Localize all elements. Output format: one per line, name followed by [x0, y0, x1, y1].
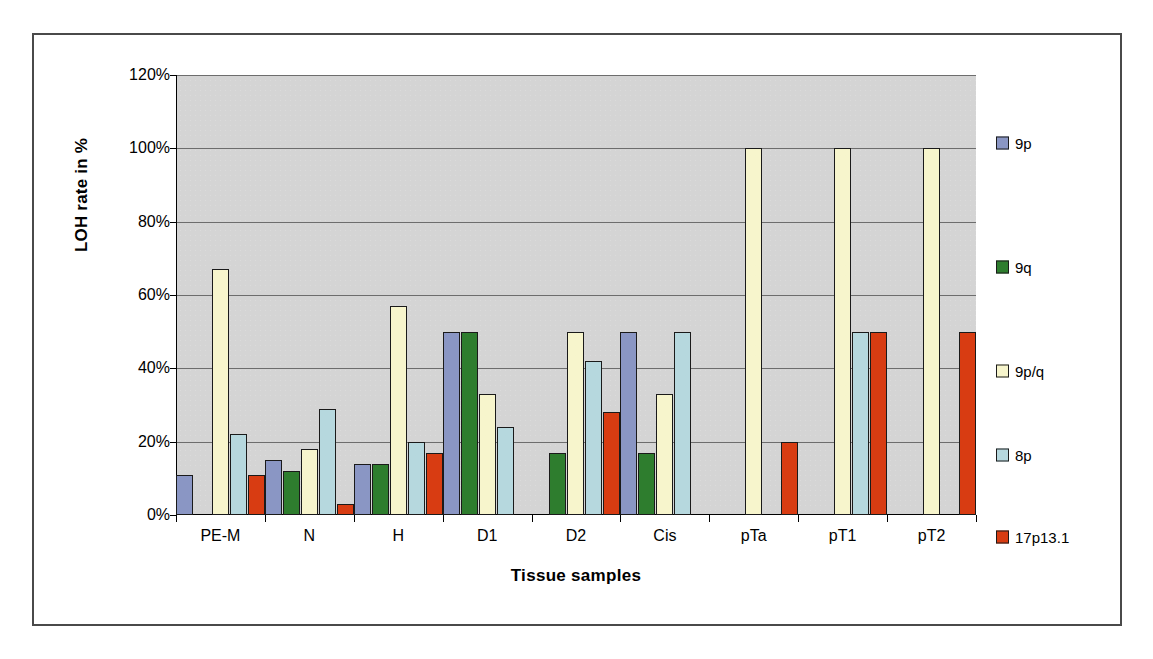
bar-9pq-pem — [212, 269, 229, 515]
bar-9pq-d1 — [479, 394, 496, 515]
legend-label: 8p — [1015, 447, 1032, 464]
bar-9pq-pta — [745, 148, 762, 515]
x-axis-tick-mark — [265, 515, 266, 522]
bar-9pq-d2 — [567, 332, 584, 515]
legend-swatch-icon — [996, 261, 1009, 274]
bar-17p131-h — [426, 453, 443, 515]
x-axis-tick-labels: PE-MNHD1D2CispTapT1pT2 — [176, 527, 976, 553]
bar-17p131-pem — [248, 475, 265, 515]
y-axis-tick-label: 40% — [110, 359, 170, 377]
bar-group — [265, 75, 354, 515]
y-axis-tick-label: 120% — [110, 66, 170, 84]
bar-9pq-cis — [656, 394, 673, 515]
bar-chart: LOH rate in % 0%20%40%60%80%100%120% PE-… — [34, 35, 1120, 624]
legend-label: 9p/q — [1015, 363, 1044, 380]
bar-8p-h — [408, 442, 425, 515]
x-axis-ticks — [176, 515, 976, 523]
figure-frame: LOH rate in % 0%20%40%60%80%100%120% PE-… — [32, 33, 1122, 626]
bar-group — [354, 75, 443, 515]
y-axis-tick-labels: 0%20%40%60%80%100%120% — [104, 75, 170, 515]
x-axis-tick-label: H — [392, 527, 404, 545]
x-axis-tick-label: PE-M — [200, 527, 240, 545]
bar-17p131-d2 — [603, 412, 620, 515]
legend-item-9pq[interactable]: 9p/q — [996, 363, 1044, 380]
bar-9pq-pt2 — [923, 148, 940, 515]
bar-9p-h — [354, 464, 371, 515]
bar-8p-d1 — [497, 427, 514, 515]
bar-8p-pt1 — [852, 332, 869, 515]
legend-label: 17p13.1 — [1015, 529, 1069, 546]
legend-item-17p131[interactable]: 17p13.1 — [996, 529, 1069, 546]
bar-group — [443, 75, 532, 515]
x-axis-tick-mark — [354, 515, 355, 522]
x-axis-tick-label: pT1 — [829, 527, 857, 545]
bar-17p131-n — [337, 504, 354, 515]
bar-9p-n — [265, 460, 282, 515]
bar-group — [176, 75, 265, 515]
x-axis-tick-label: N — [304, 527, 316, 545]
bar-9q-d1 — [461, 332, 478, 515]
bars-layer — [176, 75, 976, 515]
bar-group — [709, 75, 798, 515]
y-axis-tick-label: 20% — [110, 433, 170, 451]
legend-label: 9p — [1015, 135, 1032, 152]
bar-9p-d1 — [443, 332, 460, 515]
x-axis-tick-label: D2 — [566, 527, 586, 545]
y-axis-tick-label: 60% — [110, 286, 170, 304]
legend-item-9p[interactable]: 9p — [996, 135, 1032, 152]
x-axis-title: Tissue samples — [176, 566, 976, 586]
legend-swatch-icon — [996, 365, 1009, 378]
x-axis-tick-mark — [443, 515, 444, 522]
y-axis-title: LOH rate in % — [72, 95, 92, 295]
x-axis-tick-label: pTa — [741, 527, 767, 545]
bar-9p-pem — [176, 475, 193, 515]
bar-group — [798, 75, 887, 515]
x-axis-tick-label: Cis — [653, 527, 676, 545]
bar-8p-d2 — [585, 361, 602, 515]
legend-label: 9q — [1015, 259, 1032, 276]
bar-8p-cis — [674, 332, 691, 515]
x-axis-tick-mark — [620, 515, 621, 522]
bar-9pq-h — [390, 306, 407, 515]
bar-9q-d2 — [549, 453, 566, 515]
bar-9p-cis — [620, 332, 637, 515]
bar-17p131-pt1 — [870, 332, 887, 515]
x-axis-tick-mark — [709, 515, 710, 522]
x-axis-tick-mark — [176, 515, 177, 522]
x-axis-tick-mark — [798, 515, 799, 522]
bar-9q-h — [372, 464, 389, 515]
bar-9pq-n — [301, 449, 318, 515]
x-axis-tick-label: D1 — [477, 527, 497, 545]
y-axis-tick-label: 80% — [110, 213, 170, 231]
x-axis-tick-mark — [887, 515, 888, 522]
legend: 9p9q9p/q8p17p13.1 — [996, 75, 1116, 515]
bar-8p-n — [319, 409, 336, 515]
plot-area — [176, 75, 976, 515]
legend-swatch-icon — [996, 137, 1009, 150]
x-axis-tick-mark — [976, 515, 977, 522]
x-axis-tick-label: pT2 — [918, 527, 946, 545]
bar-group — [887, 75, 976, 515]
bar-9q-cis — [638, 453, 655, 515]
bar-17p131-pta — [781, 442, 798, 515]
legend-swatch-icon — [996, 531, 1009, 544]
bar-group — [620, 75, 709, 515]
bar-group — [532, 75, 621, 515]
bar-17p131-pt2 — [959, 332, 976, 515]
legend-item-8p[interactable]: 8p — [996, 447, 1032, 464]
bar-9q-n — [283, 471, 300, 515]
y-axis-tick-label: 100% — [110, 139, 170, 157]
legend-swatch-icon — [996, 449, 1009, 462]
bar-8p-pem — [230, 434, 247, 515]
legend-item-9q[interactable]: 9q — [996, 259, 1032, 276]
x-axis-tick-mark — [532, 515, 533, 522]
bar-9pq-pt1 — [834, 148, 851, 515]
y-axis-tick-label: 0% — [110, 506, 170, 524]
